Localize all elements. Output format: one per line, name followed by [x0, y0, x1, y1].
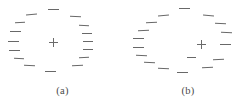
- inducer-dash: [187, 57, 196, 58]
- inducer-dash: [177, 72, 188, 73]
- inducer-dash: [157, 15, 168, 17]
- inducer-dash: [220, 32, 231, 33]
- inducer-dash: [157, 68, 168, 69]
- inducer-dash: [14, 58, 24, 60]
- inducer-dash: [212, 59, 223, 61]
- panel-a: (a): [0, 0, 125, 109]
- inducer-dash: [202, 15, 213, 17]
- inducer-dash: [133, 38, 144, 39]
- inducer-dash: [48, 9, 59, 10]
- inducer-dash: [79, 57, 89, 58]
- inducer-dash: [214, 23, 225, 25]
- inducer-dash: [79, 25, 89, 26]
- fixation-cross: [197, 40, 206, 49]
- inducer-dash: [45, 71, 56, 72]
- inducer-dash: [137, 30, 148, 31]
- stimulus-area-b: [125, 0, 251, 80]
- inducer-dash: [15, 22, 25, 23]
- inducer-dash: [82, 33, 92, 34]
- inducer-dash: [71, 65, 82, 66]
- fixation-cross: [49, 38, 58, 47]
- inducer-dash: [83, 49, 93, 50]
- panel-a-caption: (a): [0, 84, 125, 98]
- inducer-dash: [220, 44, 231, 45]
- inducer-dash: [145, 22, 156, 24]
- panel-b-caption: (b): [125, 84, 251, 98]
- inducer-dash: [25, 14, 36, 16]
- inducer-dash: [201, 67, 212, 68]
- stimulus-area-a: [0, 0, 125, 80]
- panel-b: (b): [125, 0, 251, 109]
- inducer-dash: [23, 65, 34, 66]
- inducer-dash: [133, 47, 144, 48]
- inducer-dash: [10, 31, 21, 32]
- inducer-dash: [143, 62, 154, 64]
- inducer-dash: [9, 50, 20, 51]
- inducer-dash: [135, 55, 146, 56]
- inducer-dash: [8, 41, 19, 42]
- inducer-dash: [69, 16, 80, 18]
- inducer-dash: [179, 8, 190, 9]
- figure-root: (a) (b): [0, 0, 251, 109]
- inducer-dash: [83, 41, 93, 42]
